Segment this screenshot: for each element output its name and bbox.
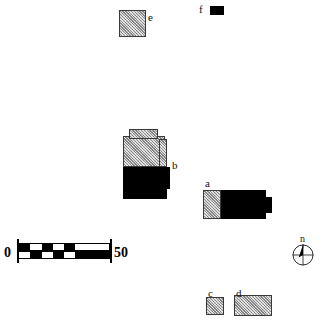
scale-bar-top-cell-4 [64, 244, 75, 250]
structure-a-hatched-room [203, 190, 221, 219]
structure-label-f: f [199, 4, 203, 15]
scale-bar-top-cell-2 [42, 244, 53, 250]
structure-b-solid-east-annex [163, 167, 170, 189]
scale-bar-bottom-cell-4 [64, 252, 75, 258]
structure-label-a: a [205, 178, 210, 189]
structure-b-hatched-upper-step [129, 129, 158, 139]
structure-b-hatched-east-wing [159, 139, 167, 167]
scale-bar-bottom-cell-5 [75, 252, 86, 258]
scale-bar-top-cell-6 [87, 244, 98, 250]
structure-label-d: d [236, 288, 242, 299]
scale-bar-bottom-cell-6 [87, 252, 98, 258]
structure-f-solid-block [210, 6, 224, 15]
scale-bar-bottom-cell-2 [42, 252, 53, 258]
structure-b [123, 129, 170, 203]
scale-bar-top-cell-1 [30, 244, 41, 250]
structure-a [203, 190, 271, 219]
structure-label-b: b [172, 160, 178, 171]
scale-bar-bottom-cell-0 [19, 252, 30, 258]
structure-a-solid-block [221, 190, 266, 219]
scale-bar-top-cell-3 [53, 244, 64, 250]
structure-e [119, 10, 146, 37]
scale-bar-end-label: 50 [114, 246, 128, 260]
scale-bar-top-row [18, 243, 110, 251]
structure-c [206, 297, 224, 315]
structure-f [210, 6, 224, 15]
site-plan-figure: abcdef 0 50 n [0, 0, 329, 334]
compass-rose: n [291, 243, 315, 271]
scale-bar-right-tick [110, 239, 112, 263]
scale-bar-bottom-cell-7 [98, 252, 109, 258]
compass-north-label: n [300, 234, 305, 244]
structure-a-east-annex [263, 197, 272, 213]
compass-needle-icon [291, 243, 315, 267]
scale-bar-bottom-cell-1 [30, 252, 41, 258]
scale-bar-top-cell-5 [75, 244, 86, 250]
scale-bar-top-cell-7 [98, 244, 109, 250]
scale-bar-top-cell-0 [19, 244, 30, 250]
structure-label-e: e [148, 12, 153, 23]
structure-label-c: c [208, 288, 213, 299]
structure-e-hatched-room [119, 10, 146, 37]
scale-bar-bottom-cell-3 [53, 252, 64, 258]
scale-bar-bottom-row [18, 251, 110, 259]
structure-b-solid-lower-main [123, 167, 167, 199]
scale-bar-start-label: 0 [4, 246, 11, 260]
structure-c-hatched-room [206, 297, 224, 315]
